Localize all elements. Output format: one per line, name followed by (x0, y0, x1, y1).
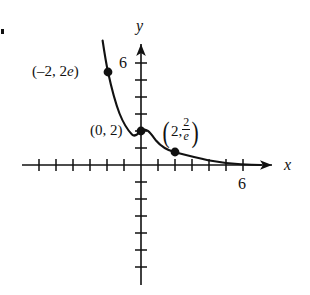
point-label-left-prefix: (–2, 2 (32, 63, 67, 79)
point-label-left-suffix: ) (74, 63, 79, 79)
coordinate-plane (0, 0, 310, 295)
y-axis-label: y (136, 18, 143, 34)
graph-figure: y x 6 6 (–2, 2e) (0, 2) (2,2e) (0, 0, 310, 295)
y-tick-label-6: 6 (119, 55, 127, 71)
point-label-intercept: (0, 2) (90, 123, 123, 138)
close-paren: ) (192, 120, 199, 143)
point-label-left: (–2, 2e) (32, 64, 79, 79)
x-tick-label-6: 6 (238, 176, 246, 192)
point-marker-intercept (137, 127, 146, 136)
x-axis-label: x (284, 157, 291, 173)
point-label-right: (2,2e) (161, 116, 200, 144)
point-marker-right (171, 148, 180, 157)
point-marker-left (104, 68, 113, 77)
point-label-right-x: 2, (171, 123, 182, 139)
point-label-left-italic: e (67, 63, 74, 79)
fraction-two-over-e: 2e (182, 116, 190, 142)
fraction-numerator: 2 (182, 116, 190, 128)
fraction-denominator: e (182, 130, 190, 142)
open-paren: ( (162, 120, 169, 143)
